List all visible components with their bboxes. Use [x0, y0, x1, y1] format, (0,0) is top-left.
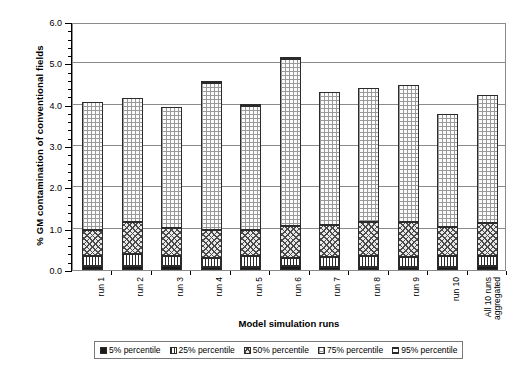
x-axis-tick: [269, 271, 270, 275]
bar-segment: [122, 222, 143, 254]
bar-segment: [161, 107, 182, 228]
x-axis-tick: [309, 271, 310, 275]
y-axis-tick-label: 2.0: [49, 183, 62, 193]
bar-segment: [319, 92, 340, 225]
legend-label: 5% percentile: [109, 345, 161, 355]
legend-item: 50% percentile: [244, 345, 309, 355]
bar-stack: [319, 92, 340, 270]
x-axis-tick: [230, 271, 231, 275]
bar-segment: [477, 223, 498, 256]
bar-segment: [201, 267, 222, 270]
bar-segment: [280, 57, 301, 59]
bar-segment: [122, 266, 143, 270]
bar-segment: [398, 222, 419, 256]
x-axis-tick-label: run 10: [451, 277, 461, 301]
bar-segment: [398, 85, 419, 223]
bar-segment: [280, 226, 301, 258]
bar-segment: [358, 222, 379, 257]
bar-segment: [280, 258, 301, 266]
y-axis-tick-label: 1.0: [49, 225, 62, 235]
legend-label: 95% percentile: [401, 345, 457, 355]
legend-label: 75% percentile: [327, 345, 383, 355]
bar-stack: [280, 59, 301, 270]
legend-swatch-horizontal-lines-icon: [392, 347, 399, 354]
legend-label: 50% percentile: [253, 345, 309, 355]
bar-segment: [358, 256, 379, 266]
bar-segment: [319, 257, 340, 267]
legend-item: 25% percentile: [170, 345, 235, 355]
x-axis-title: Model simulation runs: [72, 318, 506, 329]
bar-stack: [398, 85, 419, 270]
bar-segment: [398, 267, 419, 270]
legend-swatch-dotted-icon: [318, 347, 325, 354]
bar-segment: [122, 254, 143, 266]
bar-segment: [437, 114, 458, 227]
x-axis-tick-label: run 1: [96, 277, 106, 296]
legend-label: 25% percentile: [179, 345, 235, 355]
x-axis-tick: [427, 271, 428, 275]
bar-segment: [437, 227, 458, 256]
bar-segment: [477, 266, 498, 270]
bar-segment: [398, 257, 419, 267]
bar-segment: [319, 267, 340, 270]
y-axis-tick-label: 5.0: [49, 59, 62, 69]
legend-item: 75% percentile: [318, 345, 383, 355]
bar-stack: [477, 95, 498, 270]
bar-segment: [240, 104, 261, 106]
bar-segment: [319, 225, 340, 256]
legend-swatch-solid-black-icon: [100, 347, 107, 354]
y-axis-tick-label: 4.0: [49, 101, 62, 111]
x-axis-tick-label: run 9: [411, 277, 421, 296]
y-axis-tick-label: 0.0: [49, 266, 62, 276]
x-axis-tick-label: run 4: [214, 277, 224, 296]
plot-area: [72, 23, 506, 271]
bar-segment: [240, 256, 261, 267]
bar-stack: [201, 83, 222, 270]
legend-swatch-vertical-lines-icon: [170, 347, 177, 354]
bar-segment: [122, 98, 143, 222]
bar-segment: [477, 95, 498, 224]
x-axis-tick: [467, 271, 468, 275]
x-axis-tick-label: run 7: [332, 277, 342, 296]
bar-segment: [358, 267, 379, 270]
bar-segment: [437, 267, 458, 270]
bar-stack: [161, 107, 182, 270]
bar-stack: [82, 102, 103, 270]
legend-item: 5% percentile: [100, 345, 161, 355]
x-axis-tick: [151, 271, 152, 275]
bar-stack: [437, 114, 458, 270]
bar-segment: [280, 266, 301, 270]
bar-segment: [201, 258, 222, 267]
bar-segment: [477, 256, 498, 266]
chart-container: % GM contamination of conventional field…: [0, 0, 522, 381]
bar-segment: [161, 266, 182, 270]
y-axis-tick-label: 6.0: [49, 18, 62, 28]
bar-stack: [240, 106, 261, 271]
bar-stack: [358, 88, 379, 270]
x-axis-tick: [111, 271, 112, 275]
bar-segment: [82, 266, 103, 270]
x-axis-tick: [506, 271, 507, 275]
bar-segment: [437, 256, 458, 266]
bar-segment: [201, 81, 222, 83]
x-axis-tick: [190, 271, 191, 275]
bar-segment: [240, 230, 261, 256]
x-axis-tick-label: aggregated: [492, 277, 502, 320]
bar-segment: [240, 106, 261, 230]
bar-stack: [122, 98, 143, 270]
x-axis-tick: [348, 271, 349, 275]
chart-legend: 5% percentile25% percentile50% percentil…: [94, 341, 463, 359]
bar-segment: [82, 230, 103, 256]
y-axis-tick-label: 3.0: [49, 142, 62, 152]
x-axis-tick-label: run 3: [175, 277, 185, 296]
legend-item: 95% percentile: [392, 345, 457, 355]
bar-segment: [82, 256, 103, 266]
bar-segment: [201, 83, 222, 230]
legend-swatch-cross-hatch-icon: [244, 347, 251, 354]
bar-segment: [82, 102, 103, 230]
bar-segment: [161, 228, 182, 255]
x-axis-tick-label: run 8: [372, 277, 382, 296]
bar-segment: [161, 256, 182, 267]
y-axis: 0.01.02.03.04.05.06.0: [0, 0, 72, 272]
bar-segment: [240, 267, 261, 270]
